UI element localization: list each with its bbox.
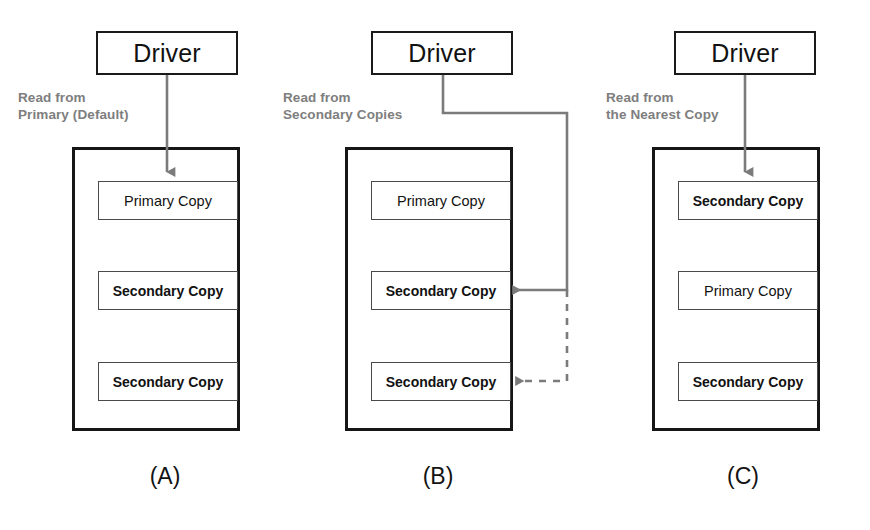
panel-caption-a: (A)	[105, 463, 225, 490]
replica-set-container-c: Secondary Copy Primary Copy Secondary Co…	[652, 147, 820, 431]
replica-node-label: Secondary Copy	[693, 193, 803, 209]
replica-set-container-a: Primary Copy Secondary Copy Secondary Co…	[72, 147, 240, 431]
read-preference-note-a: Read from Primary (Default)	[18, 89, 128, 123]
replica-set-container-b: Primary Copy Secondary Copy Secondary Co…	[345, 147, 513, 431]
replica-node-label: Secondary Copy	[113, 283, 223, 299]
driver-box-c: Driver	[674, 31, 816, 75]
replica-node-label: Primary Copy	[397, 193, 485, 209]
panel-caption-b: (B)	[378, 463, 498, 490]
panel-b: Driver Read from Secondary Copies Primar…	[283, 0, 573, 530]
panel-a: Driver Read from Primary (Default) Prima…	[0, 0, 290, 530]
diagram-canvas: Driver Read from Primary (Default) Prima…	[0, 0, 870, 530]
replica-node-c-1: Primary Copy	[678, 271, 818, 310]
driver-label-a: Driver	[133, 39, 200, 68]
replica-node-label: Primary Copy	[124, 193, 212, 209]
driver-box-b: Driver	[371, 31, 513, 75]
driver-label-c: Driver	[711, 39, 778, 68]
replica-node-b-1: Secondary Copy	[371, 271, 511, 310]
replica-node-label: Primary Copy	[704, 283, 792, 299]
replica-node-a-0: Primary Copy	[98, 181, 238, 220]
panel-c: Driver Read from the Nearest Copy Second…	[580, 0, 870, 530]
read-preference-note-b: Read from Secondary Copies	[283, 89, 402, 123]
replica-node-label: Secondary Copy	[386, 374, 496, 390]
replica-node-c-2: Secondary Copy	[678, 362, 818, 401]
read-preference-note-c: Read from the Nearest Copy	[606, 89, 719, 123]
driver-box-a: Driver	[96, 31, 238, 75]
replica-node-b-2: Secondary Copy	[371, 362, 511, 401]
panel-caption-c: (C)	[683, 463, 803, 490]
replica-node-label: Secondary Copy	[693, 374, 803, 390]
replica-node-b-0: Primary Copy	[371, 181, 511, 220]
replica-node-a-1: Secondary Copy	[98, 271, 238, 310]
driver-label-b: Driver	[408, 39, 475, 68]
replica-node-label: Secondary Copy	[113, 374, 223, 390]
replica-node-c-0: Secondary Copy	[678, 181, 818, 220]
replica-node-a-2: Secondary Copy	[98, 362, 238, 401]
replica-node-label: Secondary Copy	[386, 283, 496, 299]
